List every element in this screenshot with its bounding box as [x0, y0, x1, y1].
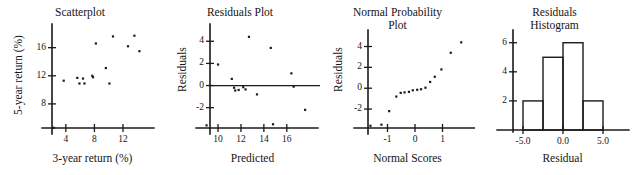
normal_probability_plot-data-point — [388, 110, 390, 112]
residuals_plot-y-tick-label: 4 — [176, 35, 204, 45]
scatterplot-data-point — [92, 76, 94, 78]
scatterplot-data-point — [112, 35, 114, 37]
residuals_plot-data-point — [233, 87, 235, 89]
scatterplot-y-tick-label: 16 — [18, 42, 46, 52]
residuals_histogram-x-tick-label: 0.0 — [548, 136, 578, 146]
residuals_histogram-x-tick-label: 5.0 — [588, 136, 618, 146]
residuals_plot-data-point — [234, 89, 236, 91]
panel-scatterplot: Scatterplot 3-year return (%) 5-year ret… — [0, 0, 160, 175]
normal_probability_plot-data-point — [369, 125, 371, 127]
normal_probability_plot-data-point — [416, 89, 418, 91]
normal_probability_plot-data-point — [440, 68, 442, 70]
scatterplot-data-point — [83, 82, 85, 84]
normal_probability_plot-data-point — [403, 91, 405, 93]
residuals_plot-data-point — [256, 93, 258, 95]
scatterplot-data-point — [82, 77, 84, 79]
residuals_plot-data-point — [238, 89, 240, 91]
residuals_plot-x-tick-label: 16 — [272, 134, 302, 144]
residuals_plot-y-tick-label: 2 — [176, 57, 204, 67]
scatterplot-data-point — [133, 35, 135, 37]
scatterplot-data-point — [63, 80, 65, 82]
normal_probability_plot-data-point — [380, 124, 382, 126]
panel-residuals-histogram: Residuals Histogram Residual 246-5.00.05… — [475, 0, 634, 175]
residuals_plot-y-tick-label: 0 — [176, 80, 204, 90]
residuals_histogram-bar — [583, 101, 603, 130]
residuals_histogram-bar — [543, 57, 563, 130]
scatterplot-x-tick-label: 4 — [51, 134, 81, 144]
residuals-histogram-xlabel: Residual — [500, 152, 625, 164]
residuals_histogram-y-tick-label: 4 — [479, 66, 507, 76]
normal_probability_plot-y-tick-label: -2 — [334, 103, 362, 113]
scatterplot-y-tick-label: 12 — [18, 70, 46, 80]
statistics-figure: Scatterplot 3-year return (%) 5-year ret… — [0, 0, 634, 175]
scatterplot-data-point — [138, 50, 140, 52]
normal_probability_plot-data-point — [434, 76, 436, 78]
residuals-histogram-canvas — [475, 0, 634, 175]
scatterplot-data-point — [78, 82, 80, 84]
scatterplot-xlabel: 3-year return (%) — [30, 152, 155, 164]
normal_probability_plot-y-tick-label: 0 — [334, 82, 362, 92]
residuals-plot-xlabel: Predicted — [190, 152, 315, 164]
panel-residuals-plot: Residuals Plot Predicted Residuals -2024… — [160, 0, 320, 175]
scatterplot-data-point — [76, 77, 78, 79]
panel-normal-probability-plot: Normal Probability Plot Normal Scores Re… — [320, 0, 475, 175]
normal_probability_plot-data-point — [420, 88, 422, 90]
residuals_histogram-x-tick-label: -5.0 — [508, 136, 538, 146]
normal_probability_plot-data-point — [400, 92, 402, 94]
residuals_plot-data-point — [293, 86, 295, 88]
scatterplot-data-point — [108, 82, 110, 84]
residuals_plot-data-point — [244, 88, 246, 90]
residuals_histogram-bar — [563, 43, 583, 130]
residuals_plot-data-point — [304, 109, 306, 111]
scatterplot-x-tick-label: 12 — [108, 134, 138, 144]
normal_probability_plot-x-tick-label: 1 — [428, 134, 458, 144]
normal_probability_plot-data-point — [408, 91, 410, 93]
normal-probability-plot-xlabel: Normal Scores — [345, 152, 470, 164]
scatterplot-data-point — [53, 127, 55, 129]
normal_probability_plot-data-point — [424, 87, 426, 89]
residuals_plot-data-point — [242, 86, 244, 88]
residuals_plot-data-point — [270, 47, 272, 49]
residuals_plot-data-point — [248, 36, 250, 38]
normal_probability_plot-data-point — [395, 95, 397, 97]
scatterplot-data-point — [105, 67, 107, 69]
residuals_plot-data-point — [231, 78, 233, 80]
residuals_histogram-bar — [523, 101, 543, 130]
scatterplot-x-tick-label: 8 — [79, 134, 109, 144]
residuals_histogram-y-tick-label: 2 — [479, 95, 507, 105]
normal_probability_plot-x-tick-label: 0 — [400, 134, 430, 144]
residuals_plot-y-tick-label: -2 — [176, 102, 204, 112]
scatterplot-y-tick-label: 8 — [18, 98, 46, 108]
normal_probability_plot-x-tick-label: -1 — [373, 134, 403, 144]
normal_probability_plot-y-tick-label: 2 — [334, 61, 362, 71]
residuals_plot-data-point — [272, 123, 274, 125]
scatterplot-canvas — [0, 0, 160, 175]
residuals_plot-data-point — [217, 63, 219, 65]
residuals_histogram-y-tick-label: 6 — [479, 37, 507, 47]
normal_probability_plot-data-point — [450, 52, 452, 54]
normal_probability_plot-data-point — [412, 89, 414, 91]
normal_probability_plot-data-point — [460, 41, 462, 43]
scatterplot-data-point — [95, 42, 97, 44]
normal_probability_plot-data-point — [429, 81, 431, 83]
normal_probability_plot-y-tick-label: 4 — [334, 41, 362, 51]
residuals_plot-data-point — [205, 124, 207, 126]
residuals_plot-data-point — [290, 72, 292, 74]
scatterplot-data-point — [127, 45, 129, 47]
